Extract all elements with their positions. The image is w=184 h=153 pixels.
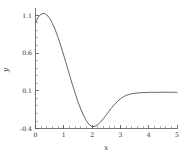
y-tick-label: 0.1 bbox=[22, 87, 32, 94]
plot-canvas: 1.1 0.6 0.1 -0.4 0 1 2 3 4 5 x y bbox=[0, 0, 184, 153]
x-tick-label: 1 bbox=[62, 131, 66, 138]
x-tick-label: 0 bbox=[34, 131, 38, 138]
x-tick-label: 3 bbox=[118, 131, 122, 138]
y-tick-labels: 1.1 0.6 0.1 -0.4 bbox=[20, 12, 32, 132]
x-tick-label: 2 bbox=[90, 131, 94, 138]
x-tick-label: 4 bbox=[147, 131, 151, 138]
y-axis-title: y bbox=[1, 67, 10, 73]
y-tick-label: 0.6 bbox=[22, 49, 32, 56]
data-curve bbox=[36, 13, 178, 126]
y-tick-label: -0.4 bbox=[20, 125, 32, 132]
x-tick-labels: 0 1 2 3 4 5 bbox=[34, 131, 180, 138]
x-axis-title: x bbox=[104, 143, 109, 152]
y-tick-label: 1.1 bbox=[22, 12, 32, 19]
chart-figure: 1.1 0.6 0.1 -0.4 0 1 2 3 4 5 x y bbox=[0, 0, 184, 153]
x-axis-major-ticks bbox=[36, 125, 178, 128]
axes-spines bbox=[36, 8, 178, 129]
x-tick-label: 5 bbox=[175, 131, 179, 138]
y-axis-major-ticks bbox=[36, 15, 39, 128]
